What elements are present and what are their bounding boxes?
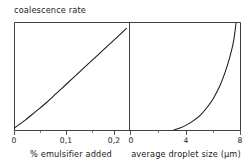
left-tick-label-1: 0,1 — [60, 136, 72, 145]
left-x-axis-title: % emulsifier added — [30, 149, 112, 159]
right-panel-ticks — [131, 131, 241, 136]
y-axis-title: coalescence rate — [14, 5, 86, 15]
right-tick-label-0: 0 — [129, 136, 134, 145]
plot-canvas: coalescence rate 0 0,1 0,2 0 — [0, 0, 251, 165]
coalescence-rate-figure: coalescence rate 0 0,1 0,2 0 — [0, 0, 251, 165]
left-panel-ticks — [15, 131, 115, 136]
right-panel-curve — [174, 23, 236, 130]
right-x-axis-title: average droplet size (μm) — [131, 149, 241, 159]
left-tick-labels: 0 0,1 0,2 — [12, 136, 121, 145]
left-tick-label-0: 0 — [12, 136, 17, 145]
left-tick-label-2: 0,2 — [108, 136, 120, 145]
left-panel-curve — [15, 28, 127, 128]
right-tick-label-2: 8 — [238, 136, 243, 145]
plot-frame — [15, 23, 241, 131]
right-tick-labels: 0 4 8 — [129, 136, 243, 145]
right-tick-label-1: 4 — [184, 136, 189, 145]
